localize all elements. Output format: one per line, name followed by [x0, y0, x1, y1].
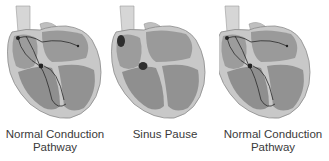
label-line1: Normal Conduction [0, 128, 115, 141]
sa-node-icon [16, 36, 20, 40]
av-node-icon [139, 62, 148, 70]
av-node-icon [248, 64, 253, 69]
label-line2: Pathway [0, 141, 115, 154]
heart-normal-conduction-icon [219, 0, 329, 130]
heart-sinus-pause-icon [110, 0, 220, 130]
av-node-icon [39, 64, 44, 69]
sa-node-icon [225, 36, 229, 40]
panel-label: Sinus Pause [105, 128, 225, 141]
panel-label: Normal Conduction Pathway [0, 128, 115, 154]
panel-normal-conduction-2: Normal Conduction Pathway [219, 0, 329, 161]
label-line1: Normal Conduction [213, 128, 329, 141]
panel-sinus-pause: Sinus Pause [110, 0, 220, 161]
heart-normal-conduction-icon [0, 0, 110, 130]
panel-normal-conduction-1: Normal Conduction Pathway [0, 0, 110, 161]
sa-node-icon [117, 35, 125, 47]
label-line2: Pathway [213, 141, 329, 154]
label-line1: Sinus Pause [105, 128, 225, 141]
panel-label: Normal Conduction Pathway [213, 128, 329, 154]
